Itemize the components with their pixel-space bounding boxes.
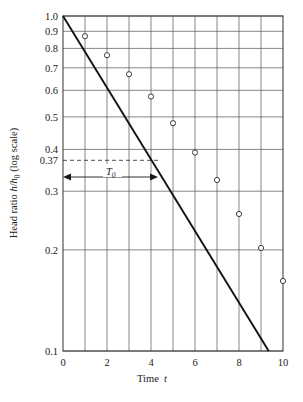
data-point-6 bbox=[192, 150, 197, 155]
data-point-4 bbox=[148, 94, 153, 99]
data-point-1 bbox=[82, 34, 87, 39]
data-point-8 bbox=[236, 211, 241, 216]
y-tick-label-0.6: 0.6 bbox=[45, 85, 58, 96]
y-tick-label-0.37: 0.37 bbox=[40, 155, 58, 166]
y-tick-label-1.0: 1.0 bbox=[45, 11, 58, 22]
x-axis-title: Time t bbox=[137, 373, 168, 384]
x-tick-label-8: 8 bbox=[236, 357, 241, 368]
y-tick-label-0.7: 0.7 bbox=[45, 63, 58, 74]
chart-figure: T0 1.0 0.9 0.8 0.7 0.6 0.5 0.4 0.37 bbox=[0, 0, 303, 402]
y-tick-label-0.1: 0.1 bbox=[45, 346, 58, 357]
data-point-10 bbox=[280, 278, 285, 283]
x-tick-label-2: 2 bbox=[104, 357, 109, 368]
x-tick-label-4: 4 bbox=[148, 357, 154, 368]
x-tick-label-6: 6 bbox=[192, 357, 197, 368]
y-tick-label-0.2: 0.2 bbox=[45, 245, 58, 256]
y-axis-title-symbol: h bbox=[8, 186, 19, 191]
y-tick-label-0.3: 0.3 bbox=[45, 186, 58, 197]
chart-svg: T0 1.0 0.9 0.8 0.7 0.6 0.5 0.4 0.37 bbox=[0, 0, 303, 402]
data-point-7 bbox=[214, 177, 219, 182]
data-point-3 bbox=[126, 72, 131, 77]
t0-subscript: 0 bbox=[112, 171, 116, 180]
x-tick-label-0: 0 bbox=[60, 357, 65, 368]
y-tick-label-0.4: 0.4 bbox=[45, 144, 59, 155]
y-tick-label-0.5: 0.5 bbox=[45, 112, 58, 123]
data-point-9 bbox=[258, 245, 263, 250]
x-tick-labels: 0 2 4 6 8 10 bbox=[60, 357, 288, 368]
x-tick-label-10: 10 bbox=[278, 357, 289, 368]
y-axis-title: Head ratio h/h0 (log scale) bbox=[8, 127, 22, 238]
data-point-5 bbox=[170, 121, 175, 126]
y-tick-label-0.9: 0.9 bbox=[45, 26, 58, 37]
x-axis-title-symbol: t bbox=[164, 373, 168, 384]
y-tick-label-0.8: 0.8 bbox=[45, 43, 58, 54]
data-point-2 bbox=[104, 53, 109, 58]
y-tick-labels: 1.0 0.9 0.8 0.7 0.6 0.5 0.4 0.37 0.3 0.2… bbox=[40, 11, 59, 357]
